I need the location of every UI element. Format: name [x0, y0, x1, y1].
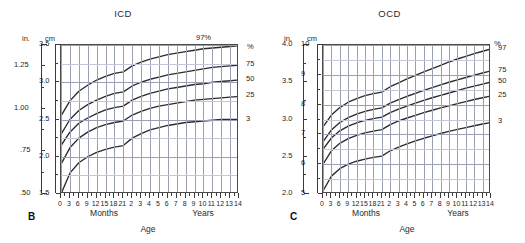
x-axis-tick-label: 12 [92, 200, 100, 207]
x-axis-minor-tick [225, 193, 226, 196]
cm-axis-tick-label: 2.5 [39, 114, 49, 123]
x-axis-minor-tick [162, 193, 163, 196]
inch-axis-minor-tick [304, 174, 306, 175]
x-axis-minor-tick [444, 193, 445, 196]
grid-line-vertical [114, 45, 115, 192]
x-axis-tick-label: 7 [429, 200, 433, 207]
grid-line-horizontal-major [61, 157, 237, 158]
percentile-label-50: 50 [498, 76, 506, 85]
cm-axis-tick [318, 104, 321, 105]
cm-axis-tick [56, 119, 59, 120]
x-axis-tick-label: 2 [387, 200, 391, 207]
x-axis-minor-tick [73, 193, 74, 196]
grid-line-vertical [474, 45, 475, 192]
cm-axis-tick-label: 1.5 [39, 188, 49, 197]
x-axis-minor-tick [180, 193, 181, 196]
x-axis-minor-tick [393, 193, 394, 196]
inch-axis-tick-label: 2.0 [282, 188, 292, 197]
grid-line-horizontal-minor [323, 120, 489, 121]
grid-line-vertical [186, 45, 187, 192]
cm-axis-minor-tick [56, 63, 58, 64]
cm-axis-tick [318, 163, 321, 164]
x-axis-tick [456, 193, 457, 198]
x-axis-tick-label: 3 [396, 200, 400, 207]
x-axis-tick [78, 193, 79, 198]
x-axis-minor-tick [145, 193, 146, 196]
grid-line-horizontal-major [323, 75, 489, 76]
ocd-inch-axis [303, 44, 304, 193]
x-axis-minor-tick [351, 193, 352, 196]
x-axis-tick [364, 193, 365, 198]
x-axis-tick-label: 21 [377, 200, 385, 207]
cm-axis-minor-tick [56, 100, 58, 101]
grid-line-vertical [441, 45, 442, 192]
x-axis-tick-label: 14 [486, 200, 494, 207]
x-axis-minor-tick [127, 193, 128, 196]
x-axis-tick-label: 5 [156, 200, 160, 207]
grid-line-vertical [466, 45, 467, 192]
grid-line-vertical [424, 45, 425, 192]
cm-axis-tick-label: 9 [301, 69, 305, 78]
x-axis-tick-label: 10 [198, 200, 206, 207]
x-axis-minor-tick [335, 193, 336, 196]
x-axis-tick [490, 193, 491, 198]
cm-axis-tick-label: 10 [301, 39, 309, 48]
grid-line-vertical [399, 45, 400, 192]
x-axis-tick-label: 11 [461, 200, 468, 207]
x-axis-minor-tick [118, 193, 119, 196]
percentile-label-3: 3 [246, 114, 250, 123]
x-axis-tick-label: 12 [216, 200, 224, 207]
cm-axis-tick [56, 81, 59, 82]
x-axis-tick [96, 193, 97, 198]
grid-line-vertical [79, 45, 80, 192]
x-axis-tick [113, 193, 114, 198]
x-axis-tick-label: 12 [469, 200, 477, 207]
inch-axis-tick [304, 119, 307, 120]
grid-line-vertical [61, 45, 62, 192]
ocd-x-axis-caption: Age [399, 224, 414, 234]
x-axis-minor-tick [461, 193, 462, 196]
grid-line-vertical [432, 45, 433, 192]
x-axis-tick [176, 193, 177, 198]
grid-line-horizontal-minor [323, 90, 489, 91]
grid-line-vertical [390, 45, 391, 192]
grid-line-vertical [88, 45, 89, 192]
ocd-years-group-label: Years [447, 208, 468, 218]
x-axis-tick [414, 193, 415, 198]
ocd-cm-axis [317, 44, 318, 193]
x-axis-minor-tick [109, 193, 110, 196]
ocd-x-axis-ticks [322, 193, 490, 198]
grid-line-horizontal-minor [61, 101, 237, 102]
x-axis-tick [322, 193, 323, 198]
x-axis-tick [356, 193, 357, 198]
inch-axis-tick [304, 156, 307, 157]
x-axis-minor-tick [402, 193, 403, 196]
x-axis-minor-tick [82, 193, 83, 196]
grid-line-horizontal-major [61, 45, 237, 46]
percentile-label-50: 50 [246, 74, 254, 83]
x-axis-tick-label: 5 [412, 200, 416, 207]
x-axis-tick [69, 193, 70, 198]
x-axis-tick [473, 193, 474, 198]
x-axis-tick-label: 15 [360, 200, 368, 207]
x-axis-minor-tick [153, 193, 154, 196]
inch-axis-tick [42, 108, 45, 109]
x-axis-tick [330, 193, 331, 198]
x-axis-minor-tick [207, 193, 208, 196]
x-axis-tick-label: 3 [138, 200, 142, 207]
grid-line-horizontal-major [323, 45, 489, 46]
x-axis-tick [465, 193, 466, 198]
inch-axis-tick-label: .50 [20, 188, 30, 197]
x-axis-tick [238, 193, 239, 198]
inch-axis-tick-label: 4.0 [282, 39, 292, 48]
x-axis-minor-tick [469, 193, 470, 196]
x-axis-minor-tick [326, 193, 327, 196]
grid-line-horizontal-minor [323, 149, 489, 150]
cm-axis-tick [56, 156, 59, 157]
panel-letter-c: C [290, 211, 297, 222]
inch-axis-tick-label: 1.25 [14, 60, 29, 69]
grid-line-vertical [407, 45, 408, 192]
grid-line-horizontal-minor [323, 179, 489, 180]
x-axis-tick [202, 193, 203, 198]
panel-letter-b: B [28, 211, 35, 222]
